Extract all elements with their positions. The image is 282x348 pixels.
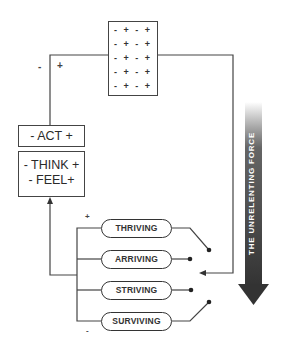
states-minus-sign: - xyxy=(86,326,89,335)
unrelenting-force-label: THE UNRELENTING FORCE xyxy=(247,125,256,255)
feel-label: - FEEL+ xyxy=(19,173,84,188)
act-label: - ACT + xyxy=(30,129,73,143)
loop-minus-sign: - xyxy=(38,61,41,72)
grid-row: - + - + xyxy=(109,53,157,63)
state-arriving: ARRIVING xyxy=(101,250,172,269)
grid-row: - + - + xyxy=(109,25,157,35)
think-label: - THINK + xyxy=(19,158,84,173)
grid-row: - + - + xyxy=(109,67,157,77)
force-arrow-head xyxy=(238,284,269,305)
act-box: - ACT + xyxy=(18,125,85,147)
state-surviving: SURVIVING xyxy=(101,312,172,331)
think-feel-box: - THINK + - FEEL+ xyxy=(18,151,85,197)
loop-plus-sign: + xyxy=(57,60,63,71)
grid-row: - + - + xyxy=(109,39,157,49)
strategy-grid-box: - + - + - + - + - + - + - + - + - + - + xyxy=(108,21,158,96)
state-striving: STRIVING xyxy=(101,281,172,300)
grid-row: - + - + xyxy=(109,81,157,91)
states-plus-sign: + xyxy=(85,212,90,221)
state-thriving: THRIVING xyxy=(101,219,172,238)
